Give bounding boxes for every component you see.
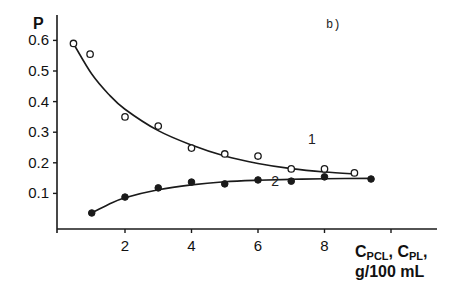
data-point-series-1 <box>288 166 294 172</box>
y-tick-label: 0.2 <box>28 154 49 171</box>
data-points <box>70 40 374 216</box>
data-point-series-2 <box>321 174 328 181</box>
x-axis-title-line2: g/100 mL <box>355 263 425 280</box>
data-point-series-2 <box>368 176 375 183</box>
x-tick-label: 8 <box>320 237 328 254</box>
data-point-series-2 <box>188 179 195 186</box>
data-point-series-1 <box>122 114 128 120</box>
data-point-series-2 <box>155 185 162 192</box>
y-tick-label: 0.1 <box>28 184 49 201</box>
data-point-series-1 <box>255 153 261 159</box>
y-tick-label: 0.3 <box>28 123 49 140</box>
y-tick-label: 0.4 <box>28 93 49 110</box>
curve-label-1: 1 <box>308 131 316 147</box>
data-point-series-1 <box>70 40 76 46</box>
fit-curve-2 <box>92 178 371 213</box>
data-point-series-2 <box>221 181 228 188</box>
x-tick-label: 2 <box>121 237 129 254</box>
y-tick-label: 0.5 <box>28 62 49 79</box>
data-point-series-2 <box>255 177 262 184</box>
panel-label: b) <box>326 18 340 32</box>
data-point-series-2 <box>122 194 129 201</box>
y-axis-title: P <box>33 15 44 32</box>
data-point-series-1 <box>351 170 357 176</box>
data-point-series-2 <box>288 178 295 185</box>
axes <box>57 15 437 233</box>
y-tick-label: 0.6 <box>28 31 49 48</box>
data-point-series-1 <box>222 151 228 157</box>
x-tick-label: 6 <box>254 237 262 254</box>
fit-curves <box>75 47 371 213</box>
data-point-series-1 <box>321 166 327 172</box>
axis-ticks: 0.10.20.30.40.50.62468 <box>28 31 391 254</box>
fit-curve-1 <box>75 47 358 175</box>
chart: 0.10.20.30.40.50.62468 P b) 1 2 CPCL, CP… <box>0 0 456 293</box>
data-point-series-2 <box>88 210 95 217</box>
data-point-series-1 <box>87 51 93 57</box>
data-point-series-1 <box>155 123 161 129</box>
x-tick-label: 4 <box>187 237 195 254</box>
data-point-series-1 <box>188 145 194 151</box>
x-axis-title-line1: CPCL, CPL, <box>355 243 428 262</box>
curve-label-2: 2 <box>271 173 279 189</box>
